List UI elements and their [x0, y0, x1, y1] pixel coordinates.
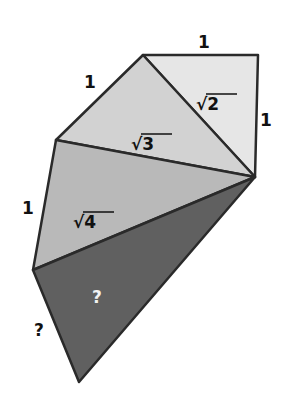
svg-text:√4: √4 — [73, 212, 96, 232]
label-right-side: 1 — [260, 110, 272, 130]
label-unknown-triangle: ? — [92, 287, 102, 307]
label-upper-left-side: 1 — [84, 72, 96, 92]
svg-text:√2: √2 — [196, 94, 219, 114]
svg-text:√3: √3 — [131, 134, 154, 154]
label-unknown-side: ? — [34, 320, 44, 340]
label-left-side: 1 — [22, 198, 34, 218]
label-top-side: 1 — [198, 32, 210, 52]
diagram-canvas: 1 1 1 1 √2 √3 √4 ? ? — [0, 0, 282, 408]
spiral-diagram: 1 1 1 1 √2 √3 √4 ? ? — [0, 0, 282, 408]
